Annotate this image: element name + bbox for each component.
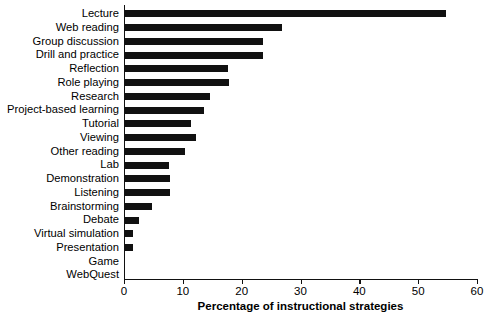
bar	[124, 148, 185, 155]
bar-row: Viewing	[124, 131, 477, 145]
bar-row: Presentation	[124, 241, 477, 255]
bar-row: Debate	[124, 213, 477, 227]
bar-row: Tutorial	[124, 117, 477, 131]
bar	[124, 107, 204, 114]
bar-row: Brainstorming	[124, 200, 477, 214]
category-label: Debate	[0, 213, 119, 226]
category-label: Virtual simulation	[0, 227, 119, 240]
bar-row: Lecture	[124, 7, 477, 21]
bar-row: Reflection	[124, 62, 477, 76]
bar	[124, 120, 191, 127]
bar-row: Lab	[124, 158, 477, 172]
x-axis-tick	[124, 279, 125, 284]
category-label: Project-based learning	[0, 103, 119, 116]
bar	[124, 10, 446, 17]
x-axis-tick-label: 50	[412, 285, 425, 297]
category-label: Web reading	[0, 21, 119, 34]
bar-row: Drill and practice	[124, 48, 477, 62]
x-axis-tick	[477, 279, 478, 284]
plot-area: LectureWeb readingGroup discussionDrill …	[124, 5, 477, 279]
x-axis-tick-label: 10	[176, 285, 189, 297]
x-axis-tick	[242, 279, 243, 284]
x-axis-tick-label: 20	[235, 285, 248, 297]
category-label: Brainstorming	[0, 200, 119, 213]
x-axis-tick	[183, 279, 184, 284]
bar-row: Demonstration	[124, 172, 477, 186]
bar	[124, 244, 133, 251]
category-label: Reflection	[0, 62, 119, 75]
bar	[124, 79, 229, 86]
x-axis-tick-label: 30	[294, 285, 307, 297]
bar	[124, 52, 263, 59]
bar-row: Research	[124, 90, 477, 104]
category-label: Viewing	[0, 131, 119, 144]
bar-row: Web reading	[124, 21, 477, 35]
bar	[124, 65, 228, 72]
bar-row: Project-based learning	[124, 103, 477, 117]
x-axis-tick-label: 40	[353, 285, 366, 297]
x-axis-tick-label: 60	[471, 285, 484, 297]
category-label: Research	[0, 90, 119, 103]
category-label: WebQuest	[0, 268, 119, 281]
bar	[124, 38, 263, 45]
bar-chart: LectureWeb readingGroup discussionDrill …	[0, 0, 493, 324]
bar	[124, 24, 282, 31]
category-label: Drill and practice	[0, 48, 119, 61]
category-label: Tutorial	[0, 117, 119, 130]
bar	[124, 217, 139, 224]
bar-row: Other reading	[124, 145, 477, 159]
bar-row: Game	[124, 255, 477, 269]
bar-row: Group discussion	[124, 35, 477, 49]
bar-row: Role playing	[124, 76, 477, 90]
bar	[124, 93, 210, 100]
x-axis-tick	[418, 279, 419, 284]
x-axis-tick-label: 0	[121, 285, 127, 297]
category-label: Group discussion	[0, 35, 119, 48]
bar-row: Listening	[124, 186, 477, 200]
x-axis-tick	[301, 279, 302, 284]
category-label: Game	[0, 255, 119, 268]
category-label: Role playing	[0, 76, 119, 89]
bar	[124, 203, 152, 210]
bar-row: Virtual simulation	[124, 227, 477, 241]
bar	[124, 189, 170, 196]
category-label: Demonstration	[0, 172, 119, 185]
category-label: Other reading	[0, 145, 119, 158]
x-axis-tick	[359, 279, 360, 284]
category-label: Lab	[0, 158, 119, 171]
bar	[124, 162, 169, 169]
category-label: Lecture	[0, 7, 119, 20]
bar	[124, 175, 170, 182]
x-axis-title: Percentage of instructional strategies	[124, 300, 477, 312]
category-label: Presentation	[0, 241, 119, 254]
bar	[124, 230, 133, 237]
category-label: Listening	[0, 186, 119, 199]
bar	[124, 134, 196, 141]
